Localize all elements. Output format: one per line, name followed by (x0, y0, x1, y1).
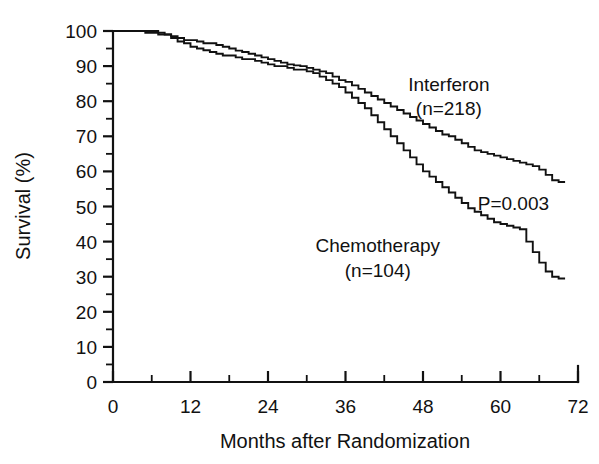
x-tick-label: 24 (257, 396, 279, 417)
y-axis-title: Survival (%) (12, 152, 34, 260)
y-tick-label: 60 (76, 161, 97, 182)
x-tick-label: 0 (108, 396, 119, 417)
x-tick-label: 48 (412, 396, 433, 417)
y-tick-label: 20 (76, 302, 97, 323)
series-annotation: Interferon (408, 74, 489, 95)
curve-interferon (113, 31, 565, 182)
y-tick-label: 40 (76, 232, 97, 253)
y-tick-label: 90 (76, 56, 97, 77)
y-tick-label: 70 (76, 126, 97, 147)
x-axis-tick-labels: 0122436486072 (108, 396, 589, 417)
y-tick-label: 10 (76, 337, 97, 358)
y-tick-label: 30 (76, 267, 97, 288)
x-axis-major-ticks (113, 371, 578, 382)
y-tick-label: 50 (76, 197, 97, 218)
series-annotation: Chemotherapy (315, 235, 440, 256)
survival-chart: 0102030405060708090100 0122436486072 Mon… (0, 0, 599, 464)
x-tick-label: 36 (335, 396, 356, 417)
x-tick-label: 12 (180, 396, 201, 417)
y-tick-label: 100 (65, 21, 97, 42)
figure-container: 0102030405060708090100 0122436486072 Mon… (0, 0, 599, 464)
x-tick-label: 72 (567, 396, 588, 417)
x-tick-label: 60 (490, 396, 511, 417)
series-annotation: (n=218) (416, 98, 482, 119)
y-tick-label: 0 (86, 372, 97, 393)
y-axis-tick-labels: 0102030405060708090100 (65, 21, 97, 393)
y-tick-label: 80 (76, 91, 97, 112)
pvalue-annotation: P=0.003 (478, 193, 549, 214)
x-axis-title: Months after Randomization (220, 430, 470, 452)
series-annotation: (n=104) (345, 260, 411, 281)
